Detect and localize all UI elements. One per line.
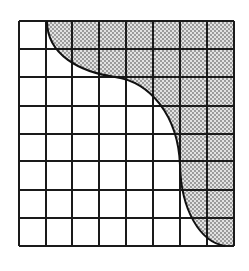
shaded-grid-diagram	[0, 0, 249, 271]
